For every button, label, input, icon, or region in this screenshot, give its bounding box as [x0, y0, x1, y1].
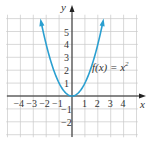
svg-text:1: 1	[64, 78, 69, 89]
y-axis-arrow-icon	[70, 5, 75, 12]
svg-text:−4: −4	[13, 98, 24, 109]
svg-text:3: 3	[108, 98, 113, 109]
y-axis-label: y	[60, 1, 66, 13]
parabola-chart: −4−3−2−1123454321−1−2 y x f(x) = x2	[0, 0, 150, 141]
svg-text:−3: −3	[26, 98, 37, 109]
svg-text:2: 2	[95, 98, 100, 109]
tick-labels: −4−3−2−1123454321−1−2	[13, 27, 125, 128]
svg-text:1: 1	[82, 98, 87, 109]
svg-text:−2: −2	[39, 98, 50, 109]
svg-text:2: 2	[64, 65, 69, 76]
x-axis-label: x	[139, 98, 145, 110]
svg-text:4: 4	[121, 98, 126, 109]
svg-text:4: 4	[64, 39, 69, 50]
curve-arrow-left-icon	[39, 19, 44, 27]
svg-text:−1: −1	[61, 104, 72, 115]
function-label: f(x) = x2	[92, 60, 129, 74]
curve-arrow-right-icon	[100, 19, 105, 27]
svg-text:−2: −2	[61, 117, 72, 128]
svg-text:3: 3	[64, 52, 69, 63]
svg-text:5: 5	[64, 27, 69, 38]
